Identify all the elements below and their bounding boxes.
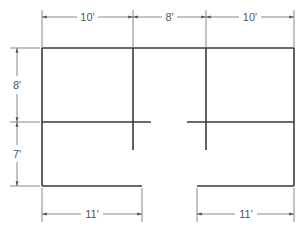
- bottom-dimensions: 11' 11': [42, 188, 294, 222]
- dim-label-top-right: 10': [243, 11, 257, 23]
- dim-label-top-left: 10': [80, 11, 94, 23]
- left-dimensions: 8' 7': [10, 48, 40, 186]
- dim-label-bottom-right: 11': [239, 208, 253, 220]
- dim-label-top-middle: 8': [165, 11, 173, 23]
- top-dimensions: 10' 8' 10': [42, 10, 294, 48]
- dim-label-left-lower: 7': [13, 148, 21, 160]
- dim-label-bottom-left: 11': [85, 208, 99, 220]
- floor-plan-diagram: 10' 8' 10' 8' 7' 11' 11': [0, 0, 304, 230]
- walls: [42, 48, 294, 186]
- dim-label-left-upper: 8': [13, 79, 21, 91]
